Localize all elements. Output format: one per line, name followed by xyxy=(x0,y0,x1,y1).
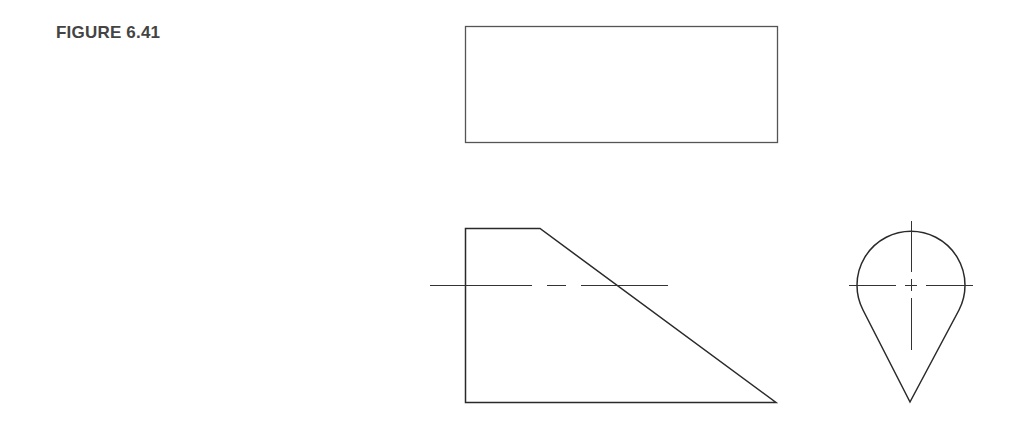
side-view xyxy=(849,221,973,402)
orthographic-drawing xyxy=(0,0,1015,422)
front-view xyxy=(430,229,776,403)
top-view xyxy=(466,27,778,143)
front-view-trapezoid xyxy=(466,229,777,403)
top-view-rectangle xyxy=(466,27,778,143)
